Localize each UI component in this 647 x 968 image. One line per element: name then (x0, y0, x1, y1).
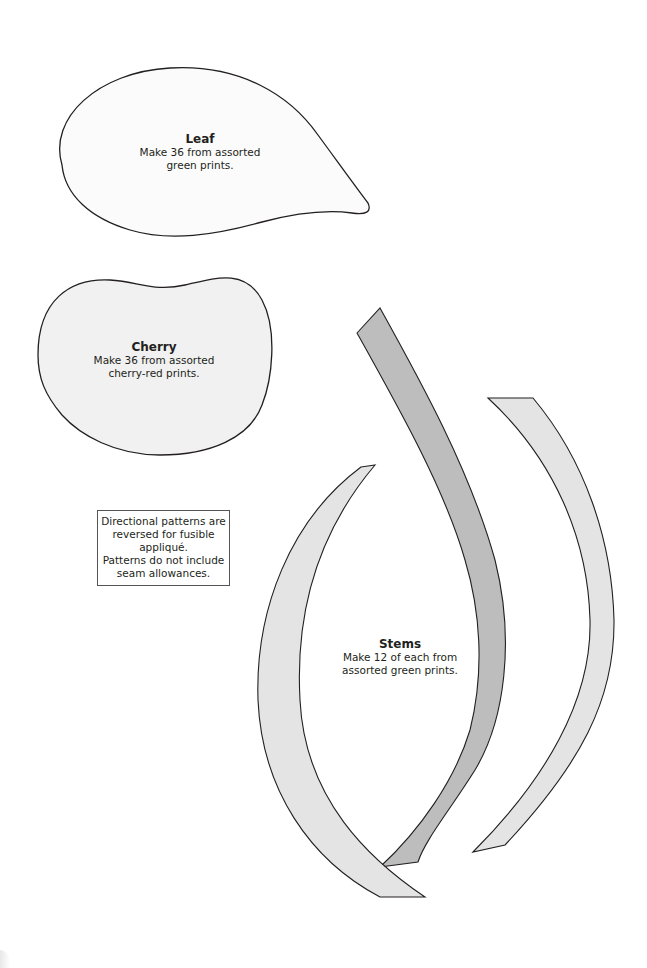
cherry-description: Make 36 from assorted cherry-red prints. (74, 354, 234, 380)
leaf-description: Make 36 from assorted green prints. (120, 146, 280, 172)
stems-label: Stems Make 12 of each from assorted gree… (325, 637, 475, 677)
stem-dark-template-shape (357, 308, 505, 867)
stems-title: Stems (325, 637, 475, 651)
cherry-label: Cherry Make 36 from assorted cherry-red … (74, 340, 234, 380)
stem-left-template-shape (258, 465, 425, 897)
cherry-title: Cherry (74, 340, 234, 354)
leaf-title: Leaf (120, 132, 280, 146)
leaf-label: Leaf Make 36 from assorted green prints. (120, 132, 280, 172)
pattern-note: Directional patterns are reversed for fu… (97, 510, 230, 586)
stems-description: Make 12 of each from assorted green prin… (325, 651, 475, 677)
pattern-shapes (0, 0, 647, 968)
